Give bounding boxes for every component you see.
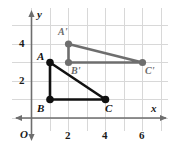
vertex-point-a [46, 59, 54, 67]
vertex-label-a: A [37, 51, 44, 62]
vertex-label-a-prime: A' [58, 27, 67, 37]
vertex-label-b-prime: B' [71, 66, 80, 76]
x-tick-label-2: 2 [65, 130, 71, 141]
vertex-label-c: C [105, 103, 112, 114]
x-tick-label-6: 6 [139, 130, 145, 141]
vertex-point-a-prime [65, 40, 72, 47]
y-tick-label-2: 2 [19, 75, 25, 86]
origin-label: O [20, 129, 28, 140]
y-tick-label-4: 4 [19, 38, 25, 49]
x-axis-arrow-left [15, 115, 22, 121]
vertex-label-b: B [37, 103, 44, 114]
y-axis-label: y [37, 9, 42, 20]
y-axis-arrow-down [28, 134, 34, 141]
x-axis-label: x [151, 103, 157, 114]
x-axis-arrow-right [160, 115, 167, 121]
x-tick-label-4: 4 [102, 130, 108, 141]
vertex-label-c-prime: C' [145, 66, 154, 76]
coordinate-grid-figure: y x O 4 2 2 4 6 A B C A' B' C' [0, 0, 173, 149]
y-axis-arrow-up [28, 10, 34, 17]
vertex-point-b [46, 96, 54, 104]
